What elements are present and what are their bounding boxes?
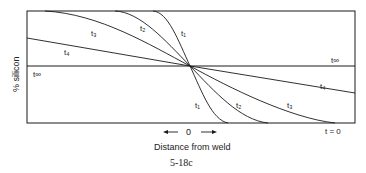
- label-t0: t = 0: [325, 127, 341, 136]
- curve-t2: [115, 11, 268, 123]
- label-t1-upper: t₁: [181, 29, 186, 38]
- label-t4-lower: t₄: [320, 82, 326, 91]
- right-arrow-icon: [212, 130, 217, 134]
- label-t3-upper: t₃: [91, 29, 96, 38]
- label-t2-lower: t₂: [236, 101, 241, 110]
- diffusion-profile-diagram: t₃ t₂ t₁ t₄ t∞ t∞ t₄ t₃ t₂ t₁ t = 0 % si…: [0, 0, 366, 173]
- figure-caption: 5-18c: [170, 157, 193, 168]
- curve-t1: [153, 11, 228, 123]
- y-axis-label: % silicon: [11, 56, 21, 92]
- label-tinf-left: t∞: [33, 70, 41, 79]
- label-t3-lower: t₃: [287, 101, 292, 110]
- left-arrow-icon: [163, 130, 168, 134]
- label-t2-upper: t₂: [140, 24, 145, 33]
- label-t4-upper: t₄: [64, 48, 70, 57]
- x-axis-label: Distance from weld: [154, 142, 231, 152]
- origin-label: 0: [186, 127, 191, 137]
- label-tinf-right: t∞: [331, 56, 339, 65]
- label-t1-lower: t₁: [195, 101, 200, 110]
